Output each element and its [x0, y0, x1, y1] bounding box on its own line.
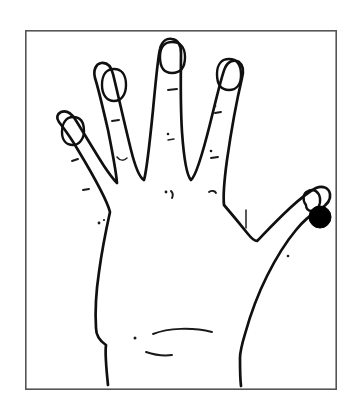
- knuckle-speck-middle: [165, 191, 168, 194]
- pinky-crease-proximal: [83, 189, 89, 190]
- index-crease-proximal: [211, 157, 218, 158]
- index-crease-distal: [215, 112, 221, 113]
- middle-crease-proximal: [168, 139, 174, 140]
- dorsum-speck-left-2: [103, 219, 105, 221]
- figure-container: Hand dorsal view line drawing with marke…: [0, 0, 357, 413]
- thumb-speck: [287, 255, 290, 258]
- thumb-marker-dot[interactable]: [309, 206, 331, 228]
- dorsum-speck-left: [98, 222, 101, 225]
- wrist-speck: [134, 337, 137, 340]
- index-speck-lower: [210, 150, 213, 153]
- middle-crease-distal: [168, 89, 177, 90]
- ring-crease-distal: [112, 120, 119, 121]
- hand-diagram-svg: [0, 0, 357, 413]
- middle-crease-speck: [167, 133, 170, 136]
- index-speck-upper: [214, 105, 217, 108]
